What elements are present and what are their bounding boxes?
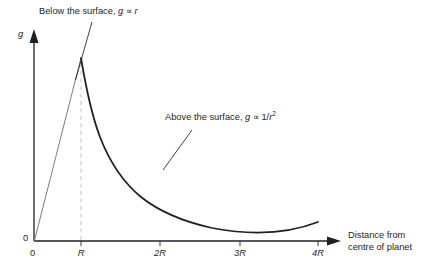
x-tick-label-4R: 4R: [308, 248, 328, 258]
below-annotation-prefix: Below the surface,: [39, 6, 118, 16]
below-surface-curve: [35, 58, 82, 241]
y-origin-label: 0: [23, 233, 28, 243]
below-annotation-prop: ∝: [123, 6, 134, 16]
above-surface-annotation: Above the surface, g ∝ 1/r2: [165, 111, 276, 122]
above-annotation-exponent: 2: [272, 110, 276, 117]
x-axis: [34, 237, 341, 246]
x-tick-label-2R: 2R: [150, 248, 170, 258]
above-annotation-prop: ∝: [250, 112, 261, 122]
below-annotation-r: r: [134, 6, 137, 16]
above-surface-curve: [81, 58, 318, 233]
x-axis-caption: Distance from centre of planet: [348, 230, 412, 254]
below-surface-annotation: Below the surface, g ∝ r: [39, 5, 138, 16]
x-axis-caption-line2: centre of planet: [348, 242, 412, 254]
above-annotation-prefix: Above the surface,: [165, 112, 245, 122]
y-axis-label: g: [18, 29, 23, 39]
x-axis-ticks: [81, 241, 318, 246]
x-axis-caption-line1: Distance from: [348, 230, 412, 242]
gravitational-field-strength-chart: g 0 0 R 2R 3R 4R Distance from centre of…: [0, 0, 432, 273]
x-tick-label-0: 0: [30, 248, 35, 258]
y-axis: [30, 29, 39, 241]
x-tick-label-3R: 3R: [230, 248, 250, 258]
above-label-leader-line: [163, 130, 192, 170]
x-tick-label-R: R: [71, 248, 91, 258]
